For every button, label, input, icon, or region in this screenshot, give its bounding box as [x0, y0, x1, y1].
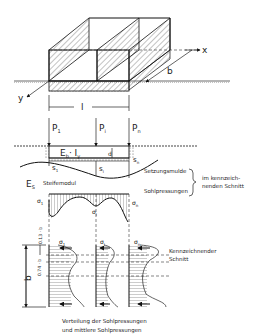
width-b-label: b: [167, 66, 173, 76]
load-pn: Pn: [132, 123, 141, 134]
settlement-trough-label: Setzungsmulde: [144, 168, 187, 175]
length-l-label: l: [81, 102, 84, 112]
load-p1: P1: [52, 123, 61, 134]
dimension-013b: 0.13 · b: [38, 227, 43, 244]
distribution-diagram: b 0.13 · b 0.74 · b σ1 σi: [22, 227, 217, 307]
axis-x-label: x: [202, 45, 208, 55]
brace-label-1: im kennzeich-: [202, 175, 240, 181]
load-pi: Pi: [99, 123, 106, 134]
caption-line-1: Verteilung der Sohlpressungen: [62, 318, 147, 325]
settlement-si: si: [99, 165, 104, 174]
soil-modulus-label: Steifemodul: [43, 180, 77, 186]
soil-modulus-symbol: ES: [26, 179, 35, 190]
sigma-n: σn: [132, 199, 139, 208]
char-section-label-2: Schnitt: [169, 256, 189, 262]
char-section-label-1: Kennzeichnender: [169, 248, 217, 254]
settlement-sn: sn: [133, 156, 140, 165]
distribution-i: σi: [96, 238, 118, 307]
beam-height-label: d: [108, 150, 112, 157]
section-view: P1 Pi Pn Eb· Iy d s1 si sn ES Steifemodu…: [14, 118, 245, 196]
sigma-1: σ1: [37, 197, 44, 206]
settlement-s1: s1: [52, 164, 59, 173]
distribution-n: σn: [129, 238, 166, 307]
contact-pressure-diagram: σ1 σi σn: [37, 194, 139, 245]
distribution-1: σ1: [49, 238, 84, 307]
foundation-diagram: x y b l P1 Pi Pn Eb· Iy d: [0, 0, 254, 336]
contact-pressure-label: Sohlpressungen: [144, 188, 188, 195]
brace-label-2: nenden Schnitt: [202, 183, 245, 189]
dimension-074b: 0.74 · b: [37, 259, 42, 276]
brace: [189, 169, 196, 196]
caption-line-2: und mittlere Sohlpressungen: [62, 327, 142, 334]
dimension-b: b: [23, 275, 33, 281]
top-view-sketch: x y b l: [14, 18, 230, 112]
axis-y-label: y: [18, 93, 24, 103]
